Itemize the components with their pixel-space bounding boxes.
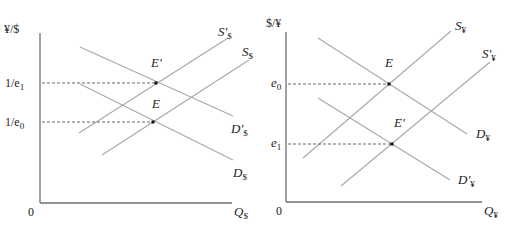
point-label-e-prime: E' bbox=[393, 115, 405, 130]
tick-label-1-over-e1: 1/e1 bbox=[5, 76, 24, 92]
tick-label-1-over-e0: 1/e0 bbox=[5, 115, 25, 131]
supply-curve-s-prime-yen bbox=[341, 62, 490, 186]
y-axis-label: ¥/$ bbox=[4, 22, 19, 36]
tick-label-e0: e0 bbox=[271, 75, 282, 92]
y-axis-label: $/¥ bbox=[266, 16, 281, 30]
yen-market-panel: $/¥ 0 Q¥ e0 e1 S¥ S'¥ D¥ D'¥ E E' bbox=[266, 16, 498, 220]
curve-label-s-prime-yen: S'¥ bbox=[482, 46, 496, 63]
exchange-rate-diagram: ¥/$ 0 Q$ 1/e1 1/e0 S'$ S$ D'$ D$ E' E $/… bbox=[0, 0, 513, 229]
equilibrium-point-e bbox=[152, 121, 155, 124]
x-axis-label: Q¥ bbox=[484, 203, 498, 220]
demand-curve-d-yen bbox=[318, 38, 467, 134]
curve-label-s-yen: S¥ bbox=[455, 18, 467, 35]
equilibrium-point-e-prime bbox=[391, 143, 394, 146]
point-label-e: E bbox=[151, 96, 160, 111]
supply-curve-s-yen bbox=[303, 31, 451, 158]
curve-label-d-dollar: D$ bbox=[232, 165, 247, 182]
point-label-e: E bbox=[384, 55, 393, 70]
origin-label: 0 bbox=[28, 205, 34, 219]
curve-label-s-dollar: S$ bbox=[242, 44, 254, 61]
curve-label-s-prime-dollar: S'$ bbox=[218, 24, 232, 41]
equilibrium-point-e-prime bbox=[155, 82, 158, 85]
x-axis-label: Q$ bbox=[234, 204, 248, 221]
dollar-market-panel: ¥/$ 0 Q$ 1/e1 1/e0 S'$ S$ D'$ D$ E' E bbox=[4, 22, 254, 221]
tick-label-e1: e1 bbox=[271, 135, 281, 152]
equilibrium-point-e bbox=[388, 83, 391, 86]
curve-label-d-prime-dollar: D'$ bbox=[230, 121, 248, 138]
supply-curve-s-dollar bbox=[102, 60, 249, 155]
supply-curve-s-prime-dollar bbox=[79, 38, 228, 133]
curve-label-d-prime-yen: D'¥ bbox=[457, 172, 475, 189]
point-label-e-prime: E' bbox=[150, 55, 162, 70]
curve-label-d-yen: D¥ bbox=[475, 126, 490, 143]
origin-label: 0 bbox=[276, 204, 282, 218]
